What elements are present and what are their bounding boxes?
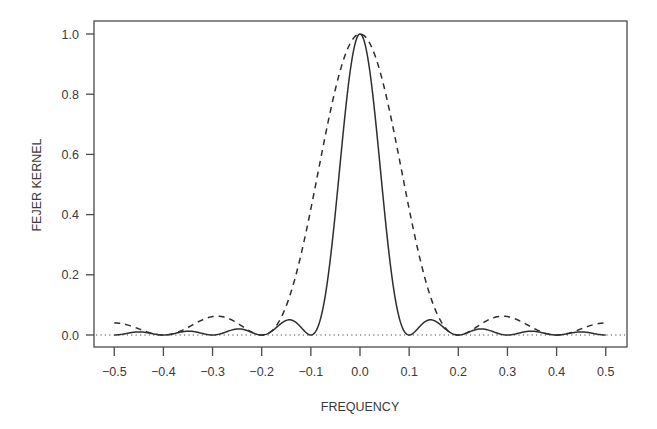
y-tick-label: 0.8: [62, 88, 79, 102]
plot-frame: [94, 21, 627, 347]
x-axis: −0.5−0.4−0.3−0.2−0.10.00.10.20.30.40.5: [102, 347, 615, 379]
y-tick-label: 0.0: [62, 329, 79, 343]
y-axis-title: FEJER KERNEL: [30, 138, 44, 231]
x-tick-label: 0.3: [499, 365, 516, 379]
y-tick-label: 1.0: [62, 28, 79, 42]
x-tick-label: 0.1: [400, 365, 417, 379]
x-tick-label: 0.4: [548, 365, 565, 379]
x-tick-label: −0.4: [151, 365, 176, 379]
series-n5-dashed: [114, 34, 606, 335]
x-tick-label: −0.1: [299, 365, 324, 379]
x-tick-label: 0.2: [450, 365, 467, 379]
x-tick-label: −0.3: [200, 365, 225, 379]
x-tick-label: −0.5: [102, 365, 127, 379]
x-tick-label: −0.2: [249, 365, 274, 379]
x-axis-title: FREQUENCY: [321, 400, 400, 414]
x-tick-label: 0.5: [597, 365, 614, 379]
x-tick-label: 0.0: [351, 365, 368, 379]
y-tick-label: 0.2: [62, 268, 79, 282]
y-axis: 0.00.20.40.60.81.0: [62, 28, 94, 343]
y-tick-label: 0.6: [62, 148, 79, 162]
series-n10-solid: [114, 34, 606, 335]
fejer-kernel-chart: 0.00.20.40.60.81.0 −0.5−0.4−0.3−0.2−0.10…: [0, 0, 657, 429]
y-tick-label: 0.4: [62, 208, 79, 222]
